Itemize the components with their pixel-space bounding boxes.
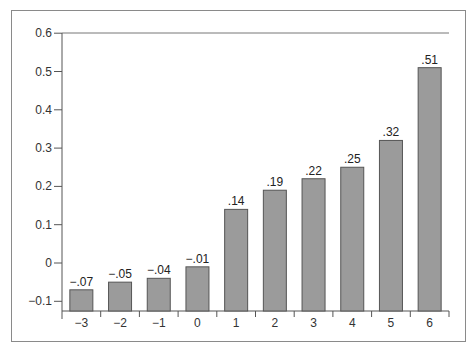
x-tick-label: −1 xyxy=(152,316,166,330)
bar xyxy=(70,290,93,311)
x-tick-label: 6 xyxy=(426,316,433,330)
x-tick-label: 2 xyxy=(272,316,279,330)
bar-value-label: −.04 xyxy=(147,263,171,277)
x-tick-label: 4 xyxy=(349,316,356,330)
bar xyxy=(109,282,132,311)
bar-value-label: .32 xyxy=(383,125,400,139)
y-tick-label: 0.3 xyxy=(35,141,52,155)
bar-value-label: .14 xyxy=(228,194,245,208)
y-tick-label: −0.1 xyxy=(28,294,52,308)
bar xyxy=(302,179,325,311)
y-tick-label: 0.6 xyxy=(35,26,52,40)
bar-value-label: .51 xyxy=(421,53,438,67)
x-tick-label: −3 xyxy=(75,316,89,330)
bar xyxy=(418,68,441,311)
bar-value-label: .22 xyxy=(305,164,322,178)
bar xyxy=(379,140,402,311)
bar-value-label: .25 xyxy=(344,152,361,166)
bar xyxy=(263,190,286,311)
y-tick-label: 0.4 xyxy=(35,103,52,117)
x-tick-label: −2 xyxy=(113,316,127,330)
bar-value-label: −.07 xyxy=(69,275,93,289)
bar-chart: −0.100.10.20.30.40.50.6−.07−3−.05−2−.04−… xyxy=(0,0,473,350)
y-tick-label: 0 xyxy=(45,256,52,270)
y-tick-label: 0.5 xyxy=(35,65,52,79)
bar-value-label: −.01 xyxy=(186,252,210,266)
x-tick-label: 3 xyxy=(310,316,317,330)
y-tick-label: 0.2 xyxy=(35,179,52,193)
bar xyxy=(186,267,209,311)
bar xyxy=(341,167,364,311)
bar-value-label: .19 xyxy=(267,175,284,189)
bar xyxy=(147,278,170,311)
x-tick-label: 1 xyxy=(233,316,240,330)
x-tick-label: 0 xyxy=(194,316,201,330)
bar-value-label: −.05 xyxy=(108,267,132,281)
x-tick-label: 5 xyxy=(388,316,395,330)
bar xyxy=(225,209,248,311)
y-tick-label: 0.1 xyxy=(35,218,52,232)
